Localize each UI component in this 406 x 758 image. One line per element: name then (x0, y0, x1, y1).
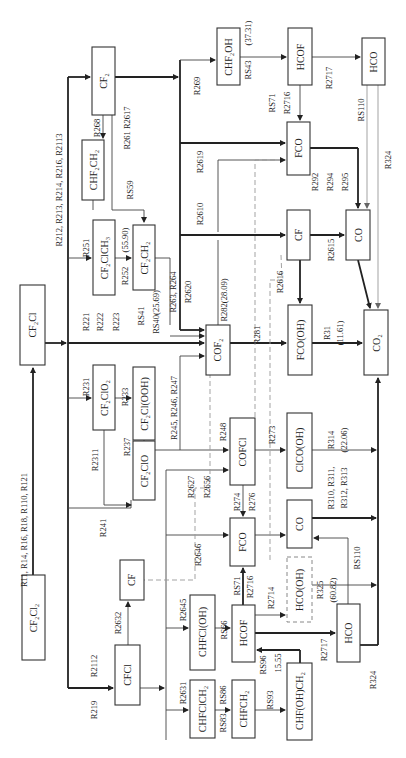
svg-text:15.55: 15.55 (273, 653, 283, 672)
svg-text:RS40(25.69): RS40(25.69) (151, 290, 161, 334)
svg-text:R292: R292 (310, 173, 320, 191)
svg-text:R241: R241 (98, 519, 108, 537)
svg-text:CFCl: CFCl (122, 664, 133, 686)
svg-text:(37.31): (37.31) (243, 20, 253, 45)
species-chfohch2: CHF(OH)CH₂ (287, 663, 312, 740)
species-cf2cl: CF₂Cl (20, 285, 45, 365)
svg-text:R237: R237 (122, 438, 132, 456)
svg-text:CO: CO (353, 228, 364, 242)
species-hco-top: HCO (362, 38, 385, 85)
svg-text:ClCO(OH): ClCO(OH) (294, 428, 306, 472)
svg-text:R273: R273 (267, 426, 277, 444)
species-chfcloh: CHFCl(OH) (190, 595, 215, 670)
species-co-low: CO (287, 500, 312, 548)
svg-text:FCO: FCO (237, 532, 248, 551)
svg-text:R281: R281 (252, 326, 262, 344)
svg-text:R282(28.09): R282(28.09) (219, 278, 229, 321)
species-chf2oh: CHF₂OH (217, 28, 240, 85)
svg-text:CF₂CH₂: CF₂CH₂ (139, 241, 150, 274)
species-chfch2: CHFCH₂ (232, 680, 255, 738)
svg-text:R261 R2617: R261 R2617 (122, 106, 132, 149)
svg-text:CF₂ClO: CF₂ClO (139, 455, 150, 487)
svg-text:R2620: R2620 (183, 281, 193, 304)
species-cof2: COF₂ (206, 325, 230, 375)
svg-text:R219: R219 (89, 701, 99, 719)
svg-text:RS86: RS86 (218, 686, 228, 705)
species-hco-low: HCO (337, 604, 360, 662)
species-hcof-low: HCOF (232, 605, 255, 662)
svg-text:CF₂ClO₂: CF₂ClO₂ (99, 380, 110, 416)
svg-text:COFCl: COFCl (237, 437, 248, 466)
svg-text:RS93: RS93 (265, 691, 275, 710)
svg-text:R2631: R2631 (178, 682, 188, 705)
species-clcooh: ClCO(OH) (287, 413, 312, 488)
svg-text:CF₂ClCH₃: CF₂ClCH₃ (99, 237, 110, 280)
svg-text:CF₂Cl₂: CF₂Cl₂ (28, 604, 39, 633)
svg-text:RS66: RS66 (219, 621, 229, 640)
svg-text:R248: R248 (218, 423, 228, 441)
svg-text:FCO: FCO (293, 138, 304, 157)
svg-text:HCO: HCO (343, 622, 354, 643)
svg-text:CF₂: CF₂ (98, 73, 109, 89)
svg-text:R233: R233 (120, 388, 130, 406)
svg-text:R245, R246, R247: R245, R246, R247 (169, 376, 179, 440)
svg-text:HCOF: HCOF (295, 43, 306, 70)
svg-text:CO₂: CO₂ (371, 334, 382, 351)
svg-text:R2645: R2645 (178, 599, 188, 622)
svg-text:HCO: HCO (368, 51, 379, 72)
svg-text:R314: R314 (326, 430, 336, 449)
species-chfclch2: CHFClCH₂ (190, 680, 215, 738)
species-cf2clooh: CF₂Cl(OOH) (133, 367, 155, 440)
svg-text:R2610: R2610 (195, 203, 205, 226)
svg-text:R11, R14, R16, R18, R110, R121: R11, R14, R16, R18, R110, R121 (19, 473, 29, 587)
svg-text:CF₂Cl(OOH): CF₂Cl(OOH) (139, 377, 151, 431)
svg-text:R252: R252 (120, 267, 130, 285)
svg-text:R310, R311,: R310, R311, (326, 467, 336, 510)
svg-text:RS83: RS83 (218, 714, 228, 733)
svg-text:CHF₂CH₂: CHF₂CH₂ (88, 150, 99, 190)
species-fcooh: FCO(OH) (288, 305, 312, 375)
svg-text:R251: R251 (81, 239, 91, 257)
svg-text:R2716: R2716 (282, 92, 292, 115)
svg-text:CF₂Cl: CF₂Cl (27, 312, 38, 337)
svg-text:R2716: R2716 (245, 576, 255, 599)
svg-text:RS110: RS110 (352, 547, 362, 570)
species-fco-low: FCO (230, 518, 255, 566)
svg-text:R2311: R2311 (90, 449, 100, 471)
species-co-top: CO (346, 210, 370, 260)
svg-text:R222: R222 (95, 313, 105, 331)
svg-text:RS59: RS59 (125, 181, 135, 200)
svg-text:R268: R268 (92, 119, 102, 137)
species-hcof-top: HCOF (288, 28, 312, 85)
svg-text:CO: CO (294, 517, 305, 531)
svg-text:CHFCl(OH): CHFCl(OH) (197, 607, 209, 657)
svg-text:R2619: R2619 (195, 151, 205, 174)
species-cf2ch2: CF₂CH₂ (133, 225, 155, 290)
svg-text:R269: R269 (192, 77, 202, 95)
svg-text:(55.90): (55.90) (120, 227, 130, 252)
svg-text:CHF₂OH: CHF₂OH (223, 38, 234, 75)
reaction-pathway-diagram: CF₂Cl₂ CF₂Cl CF₂ CHF₂CH₂ CF₂ClCH₃ CF₂CH₂… (0, 0, 406, 758)
svg-text:R274: R274 (232, 492, 242, 511)
svg-text:RS71: RS71 (267, 94, 277, 113)
svg-text:R2714: R2714 (266, 586, 276, 609)
species-cofcl: COFCl (230, 418, 255, 485)
svg-text:CF: CF (293, 228, 304, 241)
svg-text:R2616: R2616 (275, 271, 285, 294)
svg-text:R295: R295 (340, 173, 350, 191)
species-cf-mid: CF (287, 210, 310, 260)
species-cf2clo: CF₂ClO (133, 441, 155, 500)
svg-text:R324: R324 (383, 150, 393, 169)
svg-text:CF: CF (126, 573, 137, 586)
svg-text:R2632: R2632 (113, 612, 123, 635)
svg-text:R2646: R2646 (193, 544, 203, 567)
species-chf2ch2: CHF₂CH₂ (82, 140, 104, 200)
species-cf2: CF₂ (92, 47, 115, 115)
svg-text:RS43: RS43 (243, 61, 253, 80)
svg-text:R324: R324 (368, 670, 378, 689)
svg-text:FCO(OH): FCO(OH) (295, 320, 307, 361)
svg-text:R325: R325 (315, 581, 325, 599)
species-fco-top: FCO (287, 122, 310, 175)
svg-text:R2615: R2615 (326, 239, 336, 262)
species-cf2clo2: CF₂ClO₂ (93, 365, 115, 430)
